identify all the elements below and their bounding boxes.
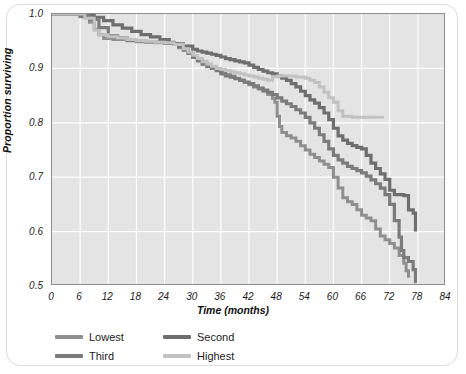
gridlines: [52, 14, 445, 285]
plot-area: [51, 13, 445, 285]
x-tick-84: 84: [439, 291, 450, 302]
chart-legend: LowestSecondThirdHighest: [55, 327, 315, 365]
legend-item-highest[interactable]: Highest: [163, 350, 271, 362]
x-tick-60: 60: [327, 291, 338, 302]
legend-label-highest: Highest: [197, 350, 234, 362]
x-tick-78: 78: [411, 291, 422, 302]
y-tick-1.0: 1.0: [9, 8, 43, 19]
plot-wrapper: [51, 13, 445, 285]
legend-item-lowest[interactable]: Lowest: [55, 331, 163, 343]
legend-label-lowest: Lowest: [89, 331, 124, 343]
legend-item-second[interactable]: Second: [163, 331, 271, 343]
y-tick-0.9: 0.9: [9, 62, 43, 73]
legend-swatch-highest: [163, 354, 191, 358]
x-tick-6: 6: [76, 291, 82, 302]
x-tick-54: 54: [299, 291, 310, 302]
legend-item-third[interactable]: Third: [55, 350, 163, 362]
x-tick-42: 42: [242, 291, 253, 302]
legend-label-third: Third: [89, 350, 114, 362]
legend-swatch-third: [55, 354, 83, 358]
y-tick-0.6: 0.6: [9, 225, 43, 236]
y-tick-0.8: 0.8: [9, 116, 43, 127]
y-tick-0.5: 0.5: [9, 280, 43, 291]
x-axis-title: Time (months): [7, 304, 459, 316]
legend-label-second: Second: [197, 331, 234, 343]
x-tick-48: 48: [271, 291, 282, 302]
x-tick-12: 12: [102, 291, 113, 302]
x-tick-0: 0: [48, 291, 54, 302]
x-tick-24: 24: [158, 291, 169, 302]
x-tick-36: 36: [214, 291, 225, 302]
y-tick-0.7: 0.7: [9, 171, 43, 182]
x-tick-66: 66: [355, 291, 366, 302]
figure-card: Proportion surviving 0.50.60.70.80.91.0 …: [6, 4, 458, 366]
x-tick-72: 72: [383, 291, 394, 302]
x-tick-30: 30: [186, 291, 197, 302]
survival-curves-svg: [52, 14, 445, 285]
x-tick-18: 18: [130, 291, 141, 302]
legend-swatch-lowest: [55, 335, 83, 339]
legend-swatch-second: [163, 335, 191, 339]
